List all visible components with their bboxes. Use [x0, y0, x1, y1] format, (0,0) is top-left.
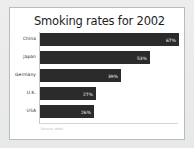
bar-value-label: 26%: [81, 110, 91, 115]
bar-value-label: 27%: [83, 92, 93, 97]
bar-category-label: China: [10, 36, 36, 41]
bar-usa: 26%: [40, 105, 94, 118]
bar-row: China 67%: [10, 32, 184, 50]
bar-row: Germany 39%: [10, 68, 184, 86]
bar-value-label: 67%: [166, 38, 176, 43]
bar-value-label: 53%: [137, 56, 147, 61]
bar-row: USA 26%: [10, 104, 184, 122]
bar-japan: 53%: [40, 51, 150, 64]
bar-category-label: Japan: [10, 54, 36, 59]
bar-value-label: 39%: [108, 74, 118, 79]
bar-china: 67%: [40, 33, 179, 46]
bar-category-label: Germany: [10, 72, 36, 77]
bar-row: U.K. 27%: [10, 86, 184, 104]
slide-root: Smoking rates for 2002 China 67% Japan 5…: [0, 0, 194, 148]
bar-category-label: USA: [10, 108, 36, 113]
slide-card: Smoking rates for 2002 China 67% Japan 5…: [9, 7, 185, 140]
bar-category-label: U.K.: [10, 90, 36, 95]
chart-source-note: Source: WHO: [41, 127, 63, 131]
x-axis-baseline: [39, 123, 178, 124]
bar-uk: 27%: [40, 87, 96, 100]
bar-chart-plot: China 67% Japan 53% Germany 39%: [10, 32, 184, 124]
chart-title: Smoking rates for 2002: [34, 14, 165, 28]
bar-row: Japan 53%: [10, 50, 184, 68]
chart-area: Smoking rates for 2002 China 67% Japan 5…: [10, 8, 184, 139]
bar-germany: 39%: [40, 69, 121, 82]
